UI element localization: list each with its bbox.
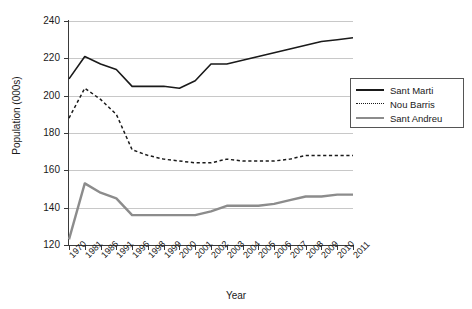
- line-chart: 120140160180200220240 197019811986199119…: [0, 0, 472, 309]
- x-axis-title: Year: [0, 290, 472, 301]
- y-tick-label: 140: [26, 203, 60, 213]
- y-tick-label: 180: [26, 128, 60, 138]
- plot-area: [69, 21, 353, 245]
- legend-label-sant-marti: Sant Marti: [390, 85, 433, 96]
- legend-item-nou-barris: Nou Barris: [356, 97, 458, 111]
- y-tick-label: 220: [26, 53, 60, 63]
- legend-line-icon-sant-andreu: [356, 112, 384, 124]
- legend-line-icon-nou-barris: [356, 98, 384, 110]
- legend-label-sant-andreu: Sant Andreu: [390, 113, 442, 124]
- legend: Sant Marti Nou Barris Sant Andreu: [350, 78, 464, 128]
- y-tick-label: 160: [26, 165, 60, 175]
- y-tick-label: 200: [26, 91, 60, 101]
- series-line-sant-marti: [69, 38, 353, 88]
- legend-label-nou-barris: Nou Barris: [390, 99, 435, 110]
- series-line-sant-andreu: [69, 183, 353, 239]
- x-tick-label: 2011: [351, 239, 372, 260]
- y-tick-label: 120: [26, 240, 60, 250]
- legend-line-icon-sant-marti: [356, 84, 384, 96]
- y-axis-title: Population (000s): [11, 16, 22, 216]
- legend-item-sant-marti: Sant Marti: [356, 83, 458, 97]
- y-tick-label: 240: [26, 16, 60, 26]
- series-layer: [69, 21, 353, 245]
- series-line-nou-barris: [69, 88, 353, 163]
- legend-item-sant-andreu: Sant Andreu: [356, 111, 458, 125]
